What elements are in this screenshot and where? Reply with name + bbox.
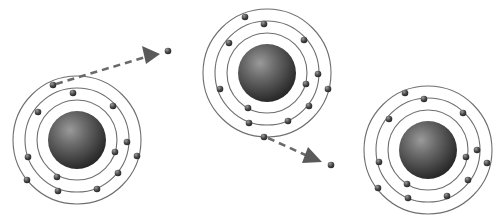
electron — [124, 139, 131, 146]
electron — [375, 185, 382, 192]
electron — [242, 14, 249, 21]
nucleus — [238, 44, 296, 102]
electron — [25, 154, 32, 161]
nucleus — [48, 111, 106, 169]
electron — [460, 110, 467, 117]
electron — [35, 109, 42, 116]
electron — [134, 153, 141, 160]
electron — [484, 160, 491, 167]
electron — [404, 181, 411, 188]
electron — [70, 90, 77, 97]
electron — [474, 147, 481, 154]
electron — [94, 186, 101, 193]
electron — [217, 86, 224, 93]
free-electron — [328, 162, 335, 169]
capture-arrow — [268, 138, 334, 168]
electron — [261, 21, 268, 28]
electron — [115, 170, 122, 177]
electron — [386, 116, 393, 123]
electron — [306, 103, 313, 110]
electron — [402, 90, 409, 97]
electron — [261, 134, 268, 141]
electron — [110, 103, 117, 110]
electron — [301, 37, 308, 44]
electron — [465, 177, 472, 184]
electron — [245, 105, 252, 112]
electron — [112, 149, 119, 156]
electron — [226, 40, 233, 47]
electron — [285, 118, 292, 125]
nucleus — [399, 121, 457, 179]
electron — [303, 81, 310, 88]
ejection-arrow — [56, 46, 171, 84]
atom-middle — [203, 9, 331, 140]
electron — [376, 159, 383, 166]
dashed-trajectory-line — [56, 55, 152, 84]
free-electron — [165, 48, 172, 55]
electron — [315, 71, 322, 78]
arrowhead-icon — [142, 46, 160, 64]
electron — [54, 174, 61, 181]
atom-right — [364, 86, 492, 214]
atoms-layer — [13, 9, 492, 214]
arrowhead-icon — [302, 147, 322, 163]
electron — [24, 177, 31, 184]
electron — [325, 86, 332, 93]
electron — [405, 195, 412, 202]
electron — [444, 193, 451, 200]
electron — [55, 188, 62, 195]
atom-left — [13, 76, 141, 204]
electron — [246, 120, 253, 127]
electron — [50, 82, 57, 89]
atom-electron-transfer-diagram — [0, 0, 502, 224]
electron — [421, 96, 428, 103]
electron — [463, 154, 470, 161]
